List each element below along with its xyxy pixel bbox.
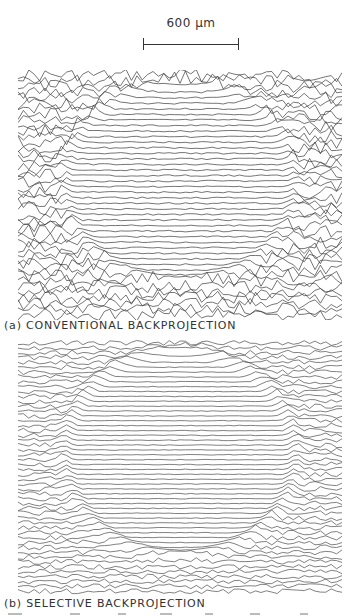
waveform-line	[18, 237, 342, 249]
waveform-line	[18, 464, 342, 471]
cut-off-text-fragment	[0, 612, 359, 616]
waveform-line	[18, 351, 342, 360]
waveform-line	[18, 241, 342, 254]
waveform-line	[18, 158, 342, 170]
waveform-line	[18, 574, 342, 579]
waveform-line	[18, 558, 342, 565]
waveform-line	[18, 84, 342, 98]
waveform-line	[18, 193, 342, 204]
waveform-stack-b	[18, 338, 342, 596]
waveform-line	[18, 579, 342, 584]
panel-a-conventional-backprojection-plot	[18, 70, 342, 320]
panel-a-caption: (a) CONVENTIONAL BACKPROJECTION	[4, 319, 236, 332]
scale-bar-line	[143, 44, 239, 45]
panel-b-caption: (b) SELECTIVE BACKPROJECTION	[4, 597, 206, 610]
waveform-line	[18, 589, 342, 594]
waveform-line	[18, 487, 342, 497]
scale-bar-right-tick	[238, 38, 239, 50]
waveform-line	[18, 375, 342, 384]
waveform-line	[18, 532, 342, 540]
waveform-line	[18, 425, 342, 433]
waveform-line	[18, 356, 342, 365]
waveform-line	[18, 460, 342, 467]
scale-bar-label: 600 μm	[141, 16, 241, 30]
waveform-line	[18, 176, 342, 188]
waveform-line	[18, 180, 342, 192]
waveform-line	[18, 297, 342, 310]
waveform-line	[18, 231, 342, 243]
waveform-stack-a	[18, 70, 342, 320]
waveform-line	[18, 70, 342, 82]
waveform-line	[18, 360, 342, 370]
waveform-line	[18, 346, 342, 355]
waveform-line	[18, 271, 342, 287]
waveform-line	[18, 480, 342, 487]
waveform-line	[18, 203, 342, 216]
waveform-line	[18, 386, 342, 394]
waveform-line	[18, 484, 342, 492]
waveform-line	[18, 537, 342, 545]
waveform-line	[18, 291, 342, 304]
panel-b-selective-backprojection-plot	[18, 338, 342, 596]
waveform-line	[18, 510, 342, 521]
waveform-line	[18, 430, 342, 437]
waveform-line	[18, 503, 342, 510]
waveform-line	[18, 569, 342, 574]
scale-bar: 600 μm	[141, 16, 241, 46]
waveform-line	[18, 342, 342, 350]
waveform-line	[18, 250, 342, 265]
waveform-line	[18, 564, 342, 569]
waveform-line	[18, 163, 342, 176]
waveform-line	[18, 185, 342, 198]
waveform-line	[18, 216, 342, 232]
waveform-line	[18, 584, 342, 589]
waveform-line	[18, 258, 342, 271]
waveform-line	[18, 419, 342, 428]
